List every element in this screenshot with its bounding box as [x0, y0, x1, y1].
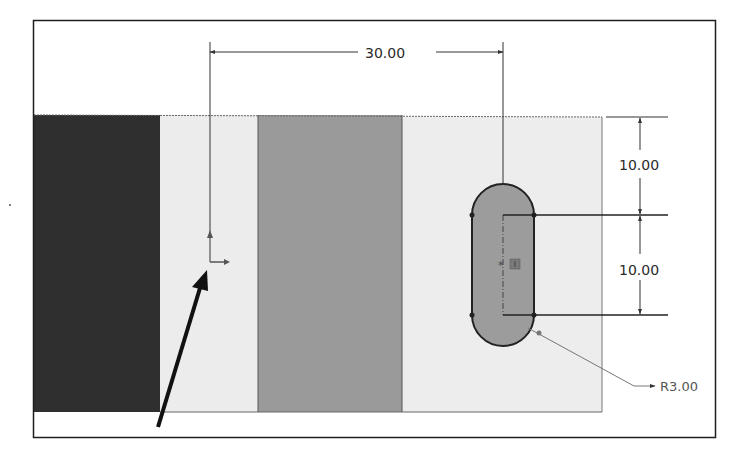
- leader-dot: [537, 331, 542, 336]
- dimension-value-radius[interactable]: R3.00: [660, 379, 698, 394]
- band-dark: [34, 115, 160, 412]
- dimension-value-30[interactable]: 30.00: [365, 45, 405, 61]
- slot-center-marker: *: [498, 259, 504, 272]
- straight-slot[interactable]: *: [470, 184, 537, 346]
- dimension-value-bottom[interactable]: 10.00: [619, 262, 659, 278]
- slot-endpoint[interactable]: [470, 313, 475, 318]
- margin-dot: [9, 204, 11, 206]
- sketch-canvas[interactable]: * 30.00 10.00 10.00 R3.00: [0, 0, 746, 462]
- dimension-value-top[interactable]: 10.00: [619, 157, 659, 173]
- band-medium: [258, 115, 402, 412]
- slot-endpoint[interactable]: [470, 213, 475, 218]
